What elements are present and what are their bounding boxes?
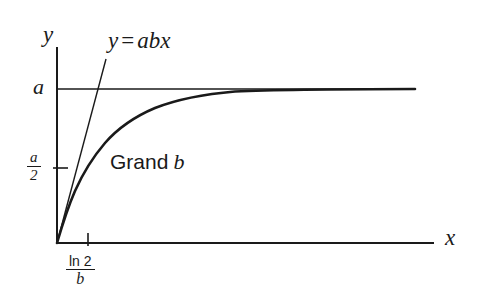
fraction-denominator: b (66, 270, 95, 287)
tangent-equation-label: y=abx (108, 29, 170, 52)
asymptote-value-label: a (33, 76, 44, 98)
fraction-numerator: a (27, 150, 41, 167)
equation-rhs: abx (137, 28, 170, 53)
x-axis-label: x (445, 226, 455, 249)
fraction-denominator: 2 (27, 167, 41, 183)
curve-annotation-word: Grand (110, 150, 168, 173)
fraction-ln2-over-b: ln 2 b (66, 254, 95, 287)
equation-lhs: y (108, 28, 118, 53)
equation-equals-sign: = (118, 28, 137, 53)
half-life-label: ln 2 b (66, 254, 95, 287)
curve-annotation-label: Grandb (110, 151, 184, 173)
figure-canvas: y x a a 2 ln 2 b y=abx Grandb (0, 0, 487, 301)
fraction-numerator: ln 2 (66, 254, 95, 270)
curve-annotation-symbol: b (168, 149, 184, 174)
y-axis-label: y (43, 23, 53, 46)
fraction-a-over-2: a 2 (27, 150, 41, 183)
half-amplitude-label: a 2 (27, 150, 41, 183)
